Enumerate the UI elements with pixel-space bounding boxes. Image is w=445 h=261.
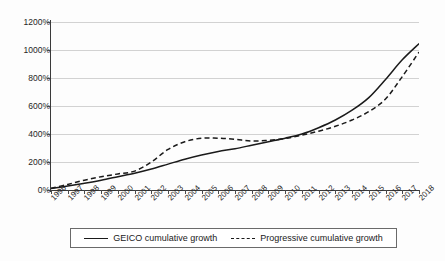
- legend-item-label: GEICO cumulative growth: [113, 233, 217, 243]
- series-geico-line: [51, 44, 419, 189]
- legend-item[interactable]: Progressive cumulative growth: [231, 233, 383, 243]
- x-axis-tick-label: 2018: [417, 183, 436, 202]
- dashed-line-icon: [231, 238, 255, 239]
- y-axis-tick-label: 0%: [2, 185, 50, 195]
- series-progressive-line: [51, 52, 419, 188]
- y-axis-tick-label: 600%: [2, 101, 50, 111]
- legend-item-label: Progressive cumulative growth: [260, 233, 383, 243]
- y-axis-tick-label: 200%: [2, 157, 50, 167]
- solid-line-icon: [84, 238, 108, 239]
- y-axis-tick-label: 1000%: [2, 45, 50, 55]
- chart-legend: GEICO cumulative growthProgressive cumul…: [70, 228, 397, 248]
- y-axis-tick-label: 1200%: [2, 17, 50, 27]
- plot-series-area: [51, 22, 419, 190]
- legend-item[interactable]: GEICO cumulative growth: [84, 233, 217, 243]
- y-axis-tick-label: 800%: [2, 73, 50, 83]
- y-axis-tick-label: 400%: [2, 129, 50, 139]
- cumulative-growth-line-chart: 0%200%400%600%800%1000%1200% 19961997199…: [0, 0, 445, 261]
- y-axis: 0%200%400%600%800%1000%1200%: [0, 0, 50, 261]
